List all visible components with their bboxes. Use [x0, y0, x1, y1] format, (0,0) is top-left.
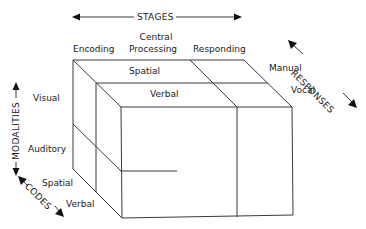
code-label-verbal-side: Verbal — [66, 199, 94, 209]
cube — [73, 60, 293, 218]
stage-label-encoding: Encoding — [73, 44, 114, 54]
code-label-spatial-top: Spatial — [129, 66, 160, 76]
stage-label-processing: Processing — [129, 44, 177, 54]
response-label-vocal: Vocal — [291, 85, 315, 95]
cube-drawing — [0, 0, 366, 229]
modality-label-auditory: Auditory — [28, 144, 66, 154]
multiple-resource-cube-diagram: STAGES RESPONSES MODALITIES CODES Encodi… — [0, 0, 366, 229]
stages-axis-label: STAGES — [137, 12, 174, 22]
code-label-spatial-side: Spatial — [42, 178, 73, 188]
stage-label-responding: Responding — [193, 44, 246, 54]
modalities-axis-label: MODALITIES — [11, 102, 21, 160]
response-label-manual: Manual — [269, 63, 302, 73]
stage-label-central: Central — [136, 32, 176, 42]
code-label-verbal-top: Verbal — [150, 89, 178, 99]
modality-label-visual: Visual — [33, 93, 60, 103]
